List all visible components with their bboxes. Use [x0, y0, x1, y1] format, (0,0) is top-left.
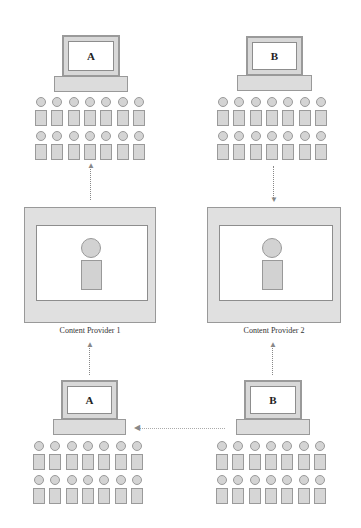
person-head-icon: [282, 475, 292, 485]
person-body-icon: [281, 454, 293, 470]
person-head-icon: [50, 475, 60, 485]
person-head-icon: [316, 97, 326, 107]
person-body-icon: [314, 454, 326, 470]
audience-member-icon: [35, 97, 47, 126]
person-body-icon: [250, 144, 262, 160]
person-body-icon: [33, 454, 45, 470]
person-body-icon: [298, 488, 310, 504]
laptop-screen-b: B: [244, 380, 302, 420]
person-head-icon: [50, 441, 60, 451]
person-head-icon: [101, 97, 111, 107]
laptop-screen-b: B: [246, 36, 303, 76]
person-head-icon: [316, 131, 326, 141]
audience-member-icon: [299, 131, 311, 160]
audience-member-icon: [299, 97, 311, 126]
person-body-icon: [49, 454, 61, 470]
person-body-icon: [233, 110, 245, 126]
person-head-icon: [132, 441, 142, 451]
person-head-icon: [67, 441, 77, 451]
person-head-icon: [83, 441, 93, 451]
laptop-base: [54, 76, 128, 92]
person-head-icon: [34, 475, 44, 485]
person-head-icon: [217, 441, 227, 451]
audience-member-icon: [217, 131, 229, 160]
person-body-icon: [262, 260, 283, 290]
audience-member-icon: [315, 97, 327, 126]
person-head-icon: [299, 475, 309, 485]
audience-member-icon: [232, 441, 244, 470]
person-head-icon: [116, 475, 126, 485]
person-head-icon: [52, 97, 62, 107]
laptop-label-a: A: [67, 386, 112, 414]
audience-member-icon: [49, 441, 61, 470]
audience-member-icon: [266, 131, 278, 160]
audience-member-icon: [133, 131, 145, 160]
laptop-label-b: B: [252, 42, 297, 70]
person-head-icon: [250, 475, 260, 485]
person-body-icon: [115, 488, 127, 504]
audience-member-icon: [33, 441, 45, 470]
person-head-icon: [218, 131, 228, 141]
laptop-base: [236, 419, 310, 435]
audience-member-icon: [298, 475, 310, 504]
audience-member-icon: [117, 97, 129, 126]
person-body-icon: [100, 144, 112, 160]
laptop-screen-a: A: [61, 380, 118, 420]
person-body-icon: [82, 454, 94, 470]
audience-member-icon: [82, 475, 94, 504]
audience-member-icon: [84, 97, 96, 126]
person-head-icon: [233, 441, 243, 451]
person-head-icon: [300, 97, 310, 107]
person-head-icon: [267, 97, 277, 107]
person-head-icon: [217, 475, 227, 485]
person-body-icon: [298, 454, 310, 470]
person-head-icon: [267, 131, 277, 141]
person-body-icon: [82, 488, 94, 504]
person-body-icon: [131, 488, 143, 504]
person-body-icon: [315, 144, 327, 160]
person-body-icon: [232, 454, 244, 470]
person-body-icon: [133, 144, 145, 160]
laptop-label-b: B: [250, 386, 296, 414]
person-body-icon: [216, 488, 228, 504]
audience-member-icon: [68, 97, 80, 126]
person-body-icon: [117, 144, 129, 160]
person-body-icon: [265, 454, 277, 470]
audience-member-icon: [98, 475, 110, 504]
person-head-icon: [118, 131, 128, 141]
person-body-icon: [216, 454, 228, 470]
audience-member-icon: [115, 475, 127, 504]
audience-member-icon: [233, 97, 245, 126]
person-head-icon: [283, 131, 293, 141]
person-body-icon: [68, 144, 80, 160]
audience-member-icon: [250, 131, 262, 160]
person-head-icon: [99, 475, 109, 485]
content-provider-2: [207, 207, 341, 323]
audience-member-icon: [232, 475, 244, 504]
laptop-base: [237, 75, 312, 91]
group-top-left: A: [0, 0, 180, 165]
person-head-icon: [99, 441, 109, 451]
audience-member-icon: [216, 441, 228, 470]
audience-member-icon: [314, 475, 326, 504]
audience-member-icon: [131, 475, 143, 504]
person-body-icon: [98, 454, 110, 470]
laptop-screen-a: A: [62, 35, 120, 77]
person-body-icon: [51, 110, 63, 126]
audience-member-icon: [117, 131, 129, 160]
person-head-icon: [266, 441, 276, 451]
audience-member-icon: [133, 97, 145, 126]
person-head-icon: [69, 97, 79, 107]
audience-member-icon: [281, 475, 293, 504]
audience-member-icon: [115, 441, 127, 470]
person-head-icon: [218, 97, 228, 107]
person-head-icon: [67, 475, 77, 485]
person-body-icon: [49, 488, 61, 504]
person-head-icon: [134, 97, 144, 107]
person-head-icon: [132, 475, 142, 485]
person-body-icon: [232, 488, 244, 504]
arrow-up-icon: ▲: [87, 162, 95, 170]
audience-member-icon: [282, 97, 294, 126]
audience-member-icon: [100, 97, 112, 126]
person-head-icon: [118, 97, 128, 107]
